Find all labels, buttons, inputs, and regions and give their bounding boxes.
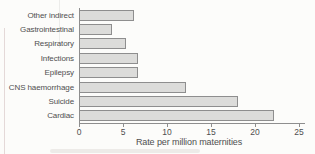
- scan-artifact-bottom-smudge: [50, 149, 200, 153]
- x-tick-label-5: 5: [113, 127, 133, 137]
- x-tick-label-25: 25: [289, 127, 309, 137]
- x-tick-label-0: 0: [69, 127, 89, 137]
- x-tick-label-20: 20: [245, 127, 265, 137]
- x-tick-label-10: 10: [157, 127, 177, 137]
- x-axis-title: Rate per million maternities: [79, 137, 299, 147]
- x-axis-ticks: 0510152025: [0, 0, 315, 154]
- x-tick-label-15: 15: [201, 127, 221, 137]
- scanned-bar-chart-figure: Other indirectGastrointestinalRespirator…: [0, 0, 315, 154]
